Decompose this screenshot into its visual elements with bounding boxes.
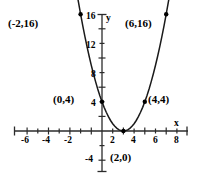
data-point-marker (164, 12, 168, 16)
y-tick-label-neg4: -4 (85, 155, 93, 165)
parabola-graph-figure: (-2,16) (6,16) (0,4) (4,4) (2,0) -6 -4 -… (0, 0, 197, 179)
point-label-2-0: (2,0) (110, 152, 131, 163)
y-tick-label-8: 8 (91, 70, 96, 80)
point-label-6-16: (6,16) (125, 18, 152, 29)
data-point-marker (121, 129, 125, 133)
y-tick-label-12: 12 (86, 41, 96, 51)
data-point-marker (78, 12, 82, 16)
x-tick-label-neg2: -2 (64, 136, 72, 146)
x-tick-label-8: 8 (174, 136, 179, 146)
x-tick-label-neg4: -4 (42, 136, 50, 146)
y-tick-label-16: 16 (86, 12, 96, 22)
data-point-marker (143, 100, 147, 104)
x-tick-label-neg6: -6 (21, 136, 29, 146)
x-axis-label: x (174, 119, 179, 129)
x-tick-label-4: 4 (131, 136, 136, 146)
y-tick-label-4: 4 (91, 99, 96, 109)
y-axis-label: y (106, 14, 111, 24)
x-tick-label-6: 6 (153, 136, 158, 146)
x-tick-label-2: 2 (110, 136, 115, 146)
data-point-marker (100, 100, 104, 104)
point-label-0-4: (0,4) (53, 94, 74, 105)
point-label-4-4: (4,4) (148, 94, 169, 105)
point-label-neg2-16: (-2,16) (8, 18, 38, 29)
